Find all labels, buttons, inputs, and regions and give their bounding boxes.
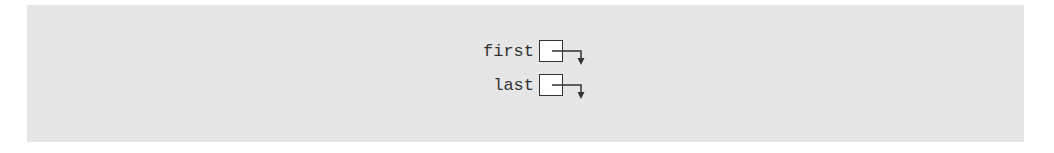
diagram-panel — [27, 5, 1024, 142]
pointer-label-first: first — [464, 42, 534, 62]
pointer-box-first — [539, 40, 563, 62]
pointer-box-last — [539, 74, 563, 96]
pointer-label-last: last — [464, 76, 534, 96]
